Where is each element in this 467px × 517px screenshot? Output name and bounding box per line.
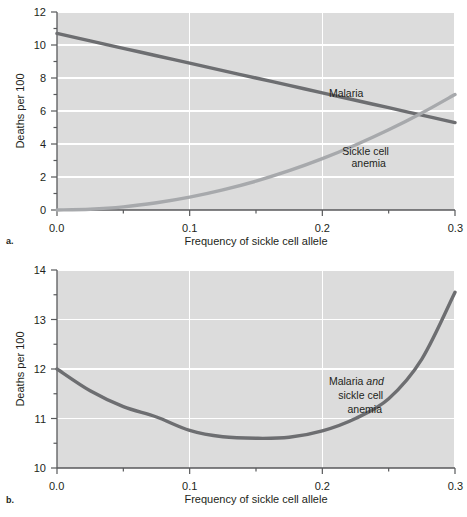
series-annotation: anemia <box>348 403 383 415</box>
chart-panel-b: 1011121314 0.00.10.20.3 Malaria andsickl… <box>0 258 467 517</box>
series-annotation: anemia <box>352 157 387 169</box>
y-tick-label: 8 <box>40 72 46 84</box>
y-tick-label: 11 <box>35 413 46 425</box>
y-tick-label: 10 <box>34 462 46 474</box>
series-annotation: Sickle cell <box>342 145 389 157</box>
chart-panel-a: 024681012 0.00.10.20.3 MalariaSickle cel… <box>0 0 467 258</box>
panel-label-b: b. <box>6 495 14 505</box>
y-tick-label: 6 <box>40 105 46 117</box>
y-tick-label: 12 <box>34 6 46 18</box>
x-tick-label: 0.3 <box>448 222 463 234</box>
x-tick-label: 0.2 <box>315 222 330 234</box>
series-annotation: Malaria and <box>329 375 385 387</box>
y-tick-label: 10 <box>34 39 46 51</box>
y-tick-label: 2 <box>40 171 46 183</box>
y-tick-label: 12 <box>34 363 46 375</box>
x-tick-label: 0.2 <box>315 480 330 492</box>
x-tick-label: 0.1 <box>182 222 197 234</box>
panel-label-a: a. <box>6 236 14 246</box>
x-tick-label: 0.1 <box>182 480 197 492</box>
x-tick-label: 0.0 <box>49 480 64 492</box>
y-tick-label: 13 <box>34 314 46 326</box>
series-annotation: Malaria <box>329 87 364 99</box>
chart-b-svg: 1011121314 0.00.10.20.3 Malaria andsickl… <box>0 258 467 517</box>
y-tick-label: 0 <box>40 204 46 216</box>
x-tick-labels: 0.00.10.20.3 <box>49 480 463 492</box>
x-axis-title: Frequency of sickle cell allele <box>184 493 327 505</box>
y-tick-label: 14 <box>34 264 46 276</box>
y-tick-label: 4 <box>40 138 46 150</box>
y-tick-labels: 024681012 <box>34 6 46 216</box>
y-axis-title: Deaths per 100 <box>14 73 26 148</box>
x-tick-labels: 0.00.10.20.3 <box>49 222 463 234</box>
y-axis-title: Deaths per 100 <box>14 331 26 406</box>
x-tick-label: 0.3 <box>448 480 463 492</box>
y-tick-labels: 1011121314 <box>34 264 46 474</box>
chart-a-svg: 024681012 0.00.10.20.3 MalariaSickle cel… <box>0 0 467 258</box>
sickle-cell-malaria-figure: 024681012 0.00.10.20.3 MalariaSickle cel… <box>0 0 467 517</box>
x-axis-title: Frequency of sickle cell allele <box>184 235 327 247</box>
x-tick-label: 0.0 <box>49 222 64 234</box>
series-annotation: sickle cell <box>338 389 383 401</box>
